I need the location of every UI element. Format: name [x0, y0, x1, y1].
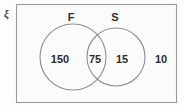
region-count-intersection: 75 — [89, 53, 101, 65]
set-s-label: S — [111, 11, 118, 23]
region-count-f-only: 150 — [51, 53, 69, 65]
set-f-label: F — [68, 11, 75, 23]
venn-diagram-svg: ξ F S 150 75 15 10 — [0, 0, 184, 112]
region-count-s-only: 15 — [116, 53, 128, 65]
venn-diagram-canvas: ξ F S 150 75 15 10 — [0, 0, 184, 112]
universal-set-symbol: ξ — [4, 7, 9, 20]
region-count-outside: 10 — [155, 53, 167, 65]
